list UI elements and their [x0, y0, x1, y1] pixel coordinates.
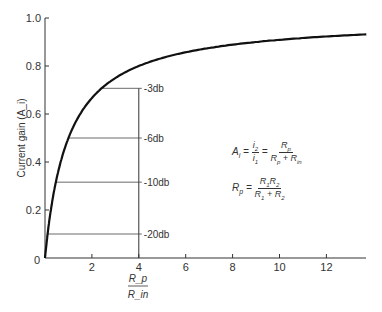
equation-rp: Rp = R1R2R1 + R2: [232, 176, 285, 201]
x-tick-label: 12: [320, 261, 332, 273]
y-ticks: 0.20.40.60.81.0: [26, 12, 49, 216]
x-tick-label: 2: [89, 261, 95, 273]
svg-text:R_p: R_p: [129, 273, 148, 284]
y-tick-label: 1.0: [26, 12, 41, 24]
y-tick-label: 0.6: [26, 108, 41, 120]
x-tick-label: 6: [183, 261, 189, 273]
x-tick-label: 8: [230, 261, 236, 273]
y-tick-label: 0.2: [26, 204, 41, 216]
x-axis-label: R_p R_in: [128, 273, 149, 300]
y-axis-label: Current gain (A_i): [16, 99, 27, 178]
gain-curve: [45, 34, 366, 258]
svg-text:R_in: R_in: [128, 289, 149, 300]
db-annotations: -3db-6db-10db-20db: [48, 83, 170, 258]
db-label: -3db: [144, 83, 164, 94]
x-ticks: 24681012: [89, 254, 333, 273]
origin-label: 0: [34, 254, 40, 266]
y-tick-label: 0.8: [26, 60, 41, 72]
x-tick-label: 4: [136, 261, 142, 273]
chart: 0.20.40.60.81.0 24681012 -3db-6db-10db-2…: [0, 0, 382, 312]
db-label: -20db: [144, 229, 170, 240]
db-label: -6db: [144, 133, 164, 144]
equation-ai: Ai = i2i1 = RpRp + Rin: [232, 140, 302, 165]
db-label: -10db: [144, 177, 170, 188]
y-tick-label: 0.4: [26, 156, 41, 168]
x-tick-label: 10: [273, 261, 285, 273]
